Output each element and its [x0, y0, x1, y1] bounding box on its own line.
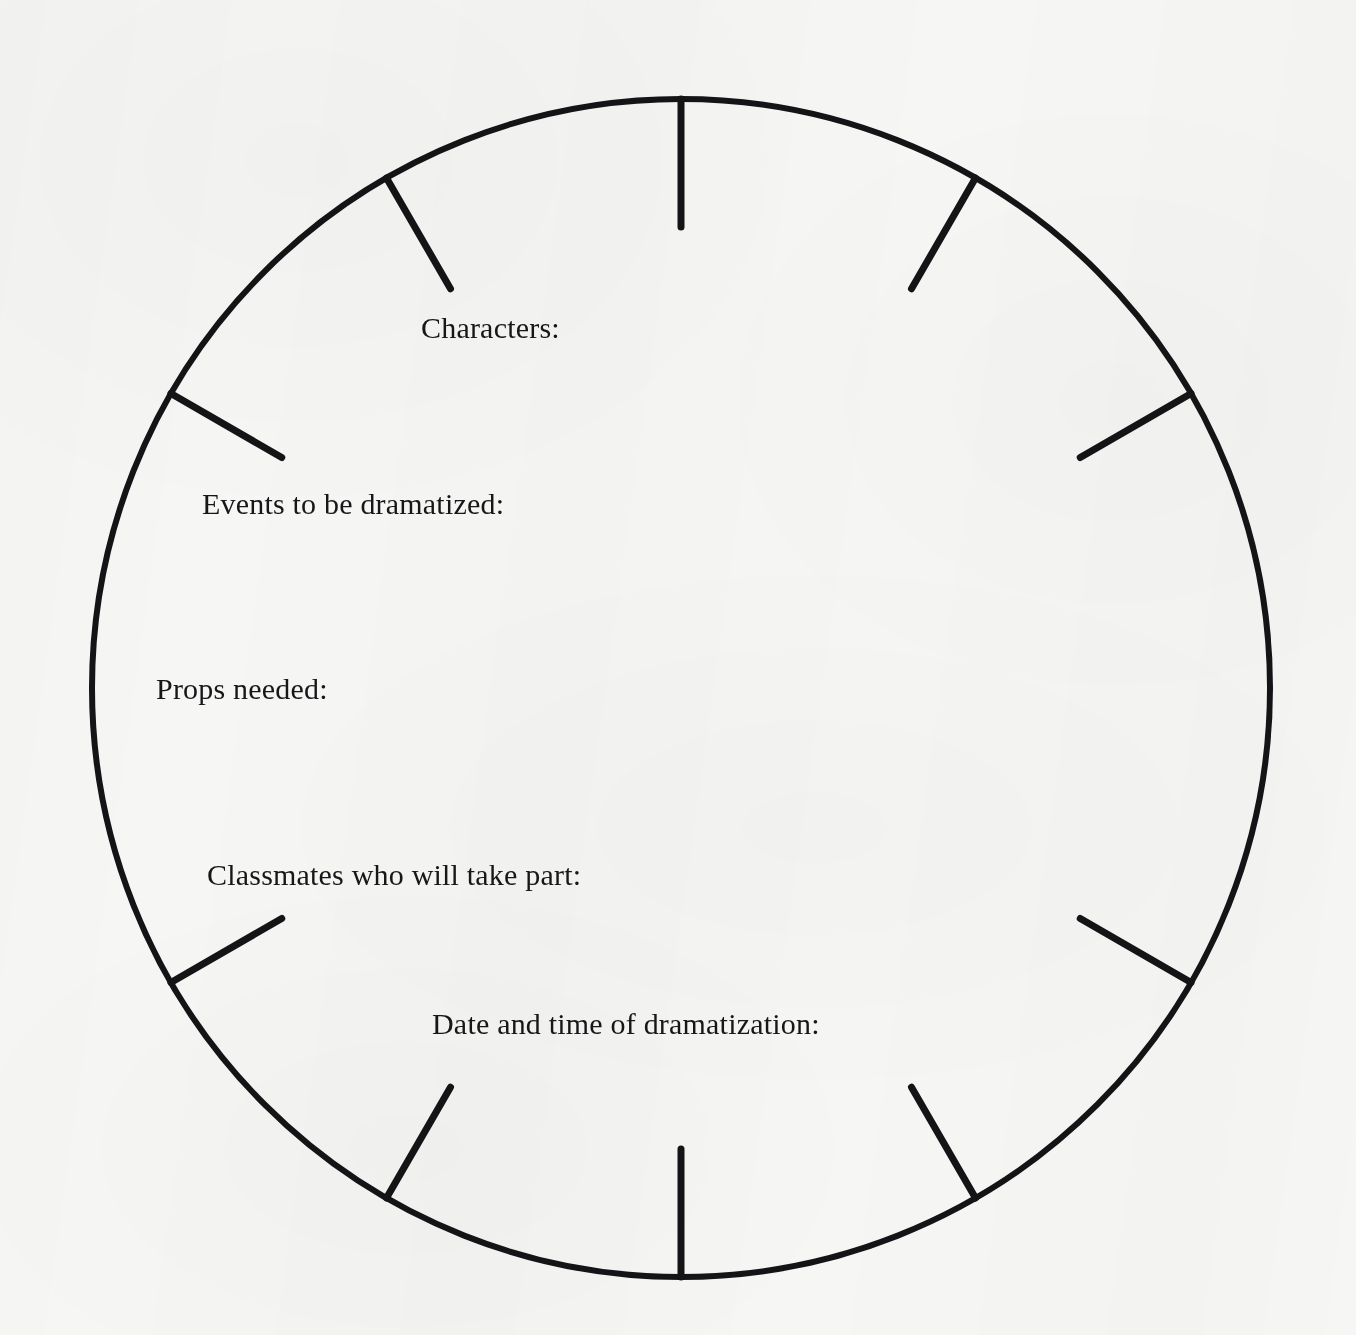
wheel-tick-mark	[1080, 919, 1191, 983]
wheel-tick-mark	[171, 919, 282, 983]
prompt-label-classmates: Classmates who will take part:	[207, 858, 581, 891]
prompt-label-characters: Characters:	[421, 311, 560, 344]
prompt-label-date-and-time: Date and time of dramatization:	[432, 1007, 820, 1040]
prompt-label-props: Props needed:	[156, 672, 328, 705]
wheel-tick-mark	[171, 394, 282, 458]
wheel-tick-mark	[387, 1087, 451, 1198]
wheel-tick-mark	[1080, 394, 1191, 458]
planning-wheel-graphic	[0, 0, 1356, 1335]
wheel-tick-mark	[912, 1087, 976, 1198]
worksheet-sheet: Characters:Events to be dramatized:Props…	[0, 0, 1356, 1335]
prompt-label-events: Events to be dramatized:	[202, 487, 504, 520]
wheel-tick-mark	[387, 178, 451, 289]
wheel-tick-mark	[912, 178, 976, 289]
